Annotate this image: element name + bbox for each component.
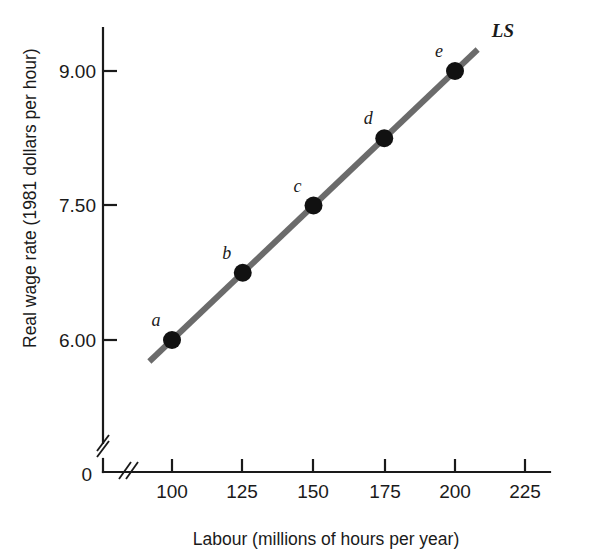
data-point-a: [163, 331, 181, 349]
data-point-label-e: e: [435, 41, 443, 61]
x-tick-label: 175: [369, 481, 401, 502]
x-tick-label: 100: [156, 481, 188, 502]
y-tick-label: 7.50: [59, 195, 96, 216]
data-point-c: [305, 197, 323, 215]
y-tick-label: 9.00: [59, 61, 96, 82]
data-point-label-b: b: [222, 243, 231, 263]
y-axis-title: Real wage rate (1981 dollars per hour): [20, 48, 40, 348]
data-point-label-c: c: [294, 176, 302, 196]
x-axis-title: Labour (millions of hours per year): [193, 529, 460, 549]
data-point-label-d: d: [364, 108, 374, 128]
x-tick-label: 200: [439, 481, 471, 502]
data-point-d: [375, 129, 393, 147]
x-tick-group: 100 125 150 175 200 225: [156, 459, 541, 502]
series-label-ls: LS: [491, 20, 514, 41]
data-point-label-a: a: [152, 310, 161, 330]
origin-label: 0: [81, 464, 92, 485]
x-axis-break-icon: [119, 462, 138, 479]
x-tick-label: 225: [509, 481, 541, 502]
chart-canvas: Real wage rate (1981 dollars per hour) L…: [0, 0, 591, 556]
ls-data-points: abcde: [152, 41, 465, 349]
y-tick-group: 9.00 7.50 6.00: [59, 61, 117, 351]
x-tick-label: 150: [297, 481, 329, 502]
y-tick-label: 6.00: [59, 330, 96, 351]
labour-supply-chart: Real wage rate (1981 dollars per hour) L…: [0, 0, 591, 556]
x-tick-label: 125: [226, 481, 258, 502]
data-point-e: [446, 62, 464, 80]
data-point-b: [234, 264, 252, 282]
